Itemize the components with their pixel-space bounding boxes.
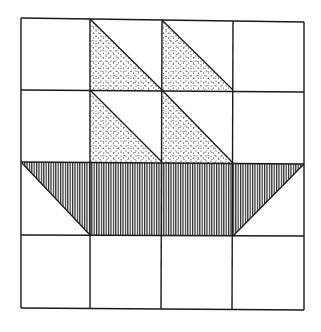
hull-shape bbox=[21, 162, 304, 236]
grid-line-h4 bbox=[21, 308, 304, 310]
grid-line-v3 bbox=[232, 21, 233, 309]
grid-line-v2 bbox=[161, 20, 162, 309]
hull bbox=[21, 162, 304, 236]
grid-line-h1 bbox=[21, 90, 304, 92]
grid-line-h3 bbox=[21, 235, 304, 236]
sailboat-quilt-block bbox=[0, 0, 321, 332]
